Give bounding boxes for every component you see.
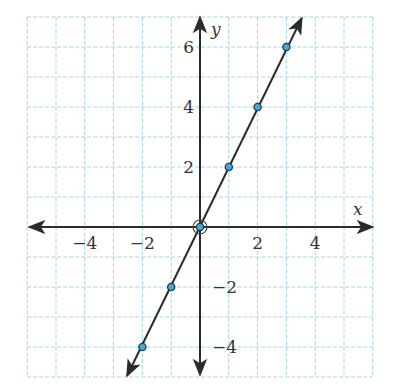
y-tick-label: −2 xyxy=(212,277,237,297)
data-point xyxy=(225,163,232,170)
x-tick-label: −4 xyxy=(72,233,97,253)
data-point xyxy=(196,223,203,230)
y-axis-label: y xyxy=(210,19,221,39)
y-tick-label: 2 xyxy=(183,157,194,177)
y-tick-label: −4 xyxy=(212,337,237,357)
data-point xyxy=(254,103,261,110)
data-point xyxy=(139,343,146,350)
data-point xyxy=(168,283,175,290)
x-tick-label: 2 xyxy=(252,233,263,253)
axes xyxy=(29,17,373,375)
y-tick-label: 6 xyxy=(183,37,194,57)
data-point xyxy=(283,43,290,50)
chart: −4−224−4−2246 x y xyxy=(0,0,394,391)
x-axis-label: x xyxy=(353,199,363,219)
x-tick-label: −2 xyxy=(130,233,155,253)
x-tick-label: 4 xyxy=(310,233,321,253)
y-tick-label: 4 xyxy=(183,97,194,117)
